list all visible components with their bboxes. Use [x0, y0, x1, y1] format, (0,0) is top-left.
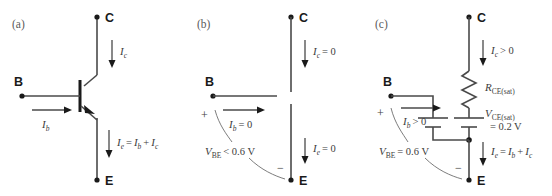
ie-equation-c: Ie=Ib+Ic — [490, 145, 533, 160]
ie-equation-a: Ie=Ib+Ic — [116, 136, 159, 151]
ib-arrow-head-c — [433, 105, 441, 112]
vbe-label-c: VBE= 0.6 V — [379, 145, 429, 160]
panel-c-tag: (c) — [375, 18, 388, 31]
ic-label-a: Ic — [119, 45, 128, 60]
panel-b-tag: (b) — [197, 18, 211, 31]
vce-sat-value-c: = 0.2 V — [490, 121, 522, 132]
panel-a-active-mode: (a) C B E Ic Ib — [0, 0, 185, 196]
collector-terminal-label-b: C — [299, 11, 308, 25]
vbe-to-junction-wire-c — [433, 127, 469, 140]
plus-sign-b: + — [201, 108, 208, 122]
vce-sat-label-c: VCE(sat) — [485, 107, 515, 122]
panel-b-cutoff-mode: (b) C B E Ic= 0 Ib= 0 Ie= 0 + — [185, 0, 370, 196]
collector-terminal-label-a: C — [105, 11, 114, 25]
rce-sat-label-c: RCE(sat) — [484, 81, 515, 96]
ie-arrow-head-b — [302, 156, 309, 164]
ic-label-c: Ic> 0 — [490, 44, 514, 59]
ic-arrow-head-b — [302, 60, 309, 68]
emitter-node-a — [94, 177, 99, 182]
ie-label-b: Ie= 0 — [312, 142, 336, 157]
ic-arrow-head-a — [109, 60, 116, 68]
collector-node-a — [94, 14, 99, 19]
panel-c-saturation-mode: (c) C E B Ic> 0 — [363, 0, 552, 196]
minus-sign-b: − — [277, 161, 284, 175]
base-wire-c — [391, 96, 433, 118]
ib-arrow-head-b — [257, 107, 265, 114]
emitter-terminal-label-c: E — [477, 174, 485, 188]
emitter-node-b — [288, 177, 293, 182]
emitter-terminal-label-a: E — [105, 174, 113, 188]
collector-lead-a — [84, 75, 97, 86]
vbe-label-b: VBE< 0.6 V — [205, 145, 255, 160]
base-node-a — [19, 93, 24, 98]
ib-label-a: Ib — [41, 118, 50, 133]
ic-label-b: Ic= 0 — [312, 45, 336, 60]
base-terminal-label-b: B — [205, 75, 214, 89]
collector-terminal-label-c: C — [477, 11, 486, 25]
base-terminal-label-c: B — [383, 75, 392, 89]
emitter-node-c — [466, 177, 471, 182]
ib-label-b: Ib= 0 — [228, 118, 252, 133]
emitter-terminal-label-b: E — [299, 174, 307, 188]
ie-arrow-head-c — [480, 158, 487, 166]
ie-arrow-head-a — [106, 150, 113, 158]
ic-arrow-head-c — [480, 58, 487, 66]
minus-sign-c: − — [455, 161, 462, 175]
ib-arrow-head-a — [64, 107, 72, 114]
ib-label-c: Ib> 0 — [402, 115, 426, 130]
bjt-models-figure: (a) C B E Ic Ib — [0, 0, 552, 196]
plus-sign-c: + — [377, 106, 384, 120]
base-terminal-label-a: B — [14, 75, 23, 89]
emitter-arrow-a — [84, 105, 95, 114]
resistor-rce-sat-c — [462, 71, 476, 108]
panel-a-tag: (a) — [12, 18, 25, 31]
